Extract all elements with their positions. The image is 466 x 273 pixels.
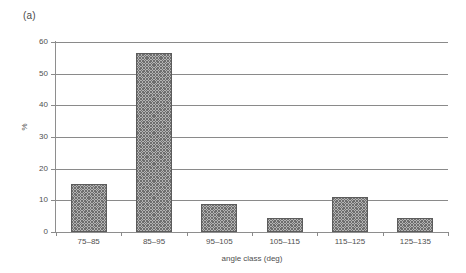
x-axis-tick-label: 115–125: [335, 238, 366, 246]
bar-series: [56, 42, 448, 232]
y-axis-tick: [51, 169, 55, 170]
plot-area: 0102030405060: [56, 42, 448, 232]
x-axis-tick: [383, 232, 384, 236]
y-axis-tick-label: 60: [39, 38, 48, 46]
x-axis-tick: [317, 232, 318, 236]
x-axis-tick: [187, 232, 188, 236]
y-axis-tick: [51, 42, 55, 43]
x-axis-tick-label: 95–105: [206, 238, 233, 246]
x-axis-tick-label: 105–115: [269, 238, 300, 246]
bar[interactable]: [332, 197, 368, 232]
bar-slot: [187, 42, 252, 232]
y-axis-tick: [51, 137, 55, 138]
bar-slot: [56, 42, 121, 232]
x-axis-tick: [252, 232, 253, 236]
x-axis-tick-label: 125–135: [400, 238, 431, 246]
y-axis-tick-label: 50: [39, 70, 48, 78]
x-axis-tick: [121, 232, 122, 236]
y-axis-tick-label: 10: [39, 196, 48, 204]
y-axis-tick-label: 20: [39, 165, 48, 173]
bar[interactable]: [267, 218, 303, 232]
bar[interactable]: [397, 218, 433, 232]
x-axis-title: angle class (deg): [222, 254, 283, 263]
bar[interactable]: [136, 53, 172, 232]
y-axis-tick: [51, 105, 55, 106]
bar-slot: [252, 42, 317, 232]
figure-panel-a: (a) % 0102030405060 75–8585–9595–105105–…: [0, 0, 466, 273]
bar-slot: [121, 42, 186, 232]
x-axis-tick: [448, 232, 449, 236]
y-axis-tick-label: 0: [44, 228, 48, 236]
y-axis-tick-label: 30: [39, 133, 48, 141]
x-axis-tick-label: 85–95: [143, 238, 165, 246]
y-axis-title: %: [21, 123, 29, 130]
bar[interactable]: [71, 184, 107, 232]
bar-slot: [317, 42, 382, 232]
x-axis-tick-labels: 75–8585–9595–105105–115115–125125–135: [56, 238, 448, 252]
x-axis-tick-label: 75–85: [78, 238, 100, 246]
panel-label: (a): [23, 10, 36, 21]
y-axis-tick-label: 40: [39, 101, 48, 109]
bar-slot: [383, 42, 448, 232]
y-axis-tick: [51, 74, 55, 75]
x-axis-tick: [56, 232, 57, 236]
y-axis-tick: [51, 200, 55, 201]
bar[interactable]: [201, 204, 237, 233]
